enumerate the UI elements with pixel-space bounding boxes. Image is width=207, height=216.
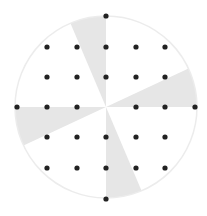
dot — [74, 165, 79, 170]
dot — [14, 104, 19, 109]
dot — [44, 74, 49, 79]
dot — [162, 74, 167, 79]
dot — [133, 165, 138, 170]
left-wedge — [15, 107, 106, 145]
dot — [103, 13, 108, 18]
dot — [162, 165, 167, 170]
shaded-wedges — [15, 16, 197, 198]
dot — [74, 44, 79, 49]
right-wedge — [106, 69, 197, 107]
dot — [44, 134, 49, 139]
dot — [103, 165, 108, 170]
top-wedge — [70, 16, 106, 107]
dot — [103, 74, 108, 79]
dot — [44, 104, 49, 109]
bottom-wedge — [106, 107, 142, 198]
dot-circle-diagram — [0, 0, 207, 216]
dot — [44, 165, 49, 170]
dot — [74, 134, 79, 139]
dot — [103, 44, 108, 49]
dot — [74, 104, 79, 109]
dot — [192, 104, 197, 109]
dot — [133, 104, 138, 109]
dot — [162, 134, 167, 139]
dot — [103, 196, 108, 201]
dot — [162, 44, 167, 49]
dot — [74, 74, 79, 79]
dot — [133, 44, 138, 49]
dot — [162, 104, 167, 109]
dot — [133, 134, 138, 139]
dot — [133, 74, 138, 79]
dot — [44, 44, 49, 49]
dot — [103, 134, 108, 139]
